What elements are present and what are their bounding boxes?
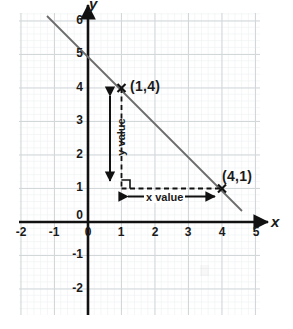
y-axis-label: y	[89, 0, 97, 12]
ytick-label-neg1: -1	[65, 247, 83, 261]
xtick-label-2: 2	[147, 225, 163, 239]
x-value-label: x value	[144, 191, 185, 203]
xtick-label-5: 5	[248, 225, 264, 239]
graph-figure: 6 5 4 3 2 1 0 -1 -2 -2 -1 0 1 2 3 4 5 y …	[0, 0, 293, 329]
point-label-b: (4,1)	[222, 168, 252, 184]
coordinate-plane-svg	[0, 0, 293, 329]
x-axis-label: x	[271, 213, 279, 230]
ytick-label-2: 2	[69, 147, 83, 161]
point-label-a: (1,4)	[130, 78, 160, 94]
xtick-label-1: 1	[113, 225, 129, 239]
ytick-label-5: 5	[69, 46, 83, 60]
xtick-label-3: 3	[180, 225, 196, 239]
grid	[19, 13, 260, 315]
ytick-label-3: 3	[69, 113, 83, 127]
y-value-label: y value	[115, 107, 127, 167]
ytick-label-6: 6	[69, 13, 83, 27]
ytick-label-neg2: -2	[65, 281, 83, 295]
xtick-label-neg1: -1	[44, 225, 64, 239]
ytick-label-0: 0	[69, 208, 83, 222]
xtick-label-neg2: -2	[11, 225, 31, 239]
ytick-label-1: 1	[69, 180, 83, 194]
xtick-label-0: 0	[80, 225, 96, 239]
scan-artifact	[200, 265, 209, 276]
ytick-label-4: 4	[69, 80, 83, 94]
xtick-label-4: 4	[214, 225, 230, 239]
